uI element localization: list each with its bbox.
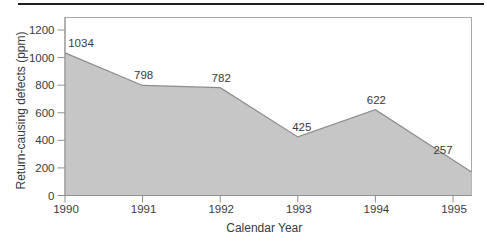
data-point-label: 798	[134, 69, 153, 81]
data-point-label: 1034	[68, 37, 94, 49]
defects-area-series	[65, 53, 472, 196]
x-tick-label: 1991	[131, 203, 157, 215]
x-tick-label: 1994	[364, 203, 390, 215]
x-tick-label: 1992	[208, 203, 234, 215]
y-tick-label: 400	[35, 134, 54, 146]
defects-area-chart-figure: 0200400600800100012001990199119921993199…	[0, 0, 487, 249]
x-tick-label: 1995	[441, 203, 467, 215]
x-axis-title: Calendar Year	[226, 221, 302, 235]
chart-svg: 0200400600800100012001990199119921993199…	[0, 0, 487, 249]
y-tick-label: 800	[35, 79, 54, 91]
data-point-label: 425	[292, 121, 311, 133]
data-point-label: 257	[433, 144, 452, 156]
data-point-label: 622	[367, 94, 386, 106]
y-tick-label: 1000	[29, 52, 55, 64]
y-tick-label: 600	[35, 107, 54, 119]
y-tick-label: 200	[35, 162, 54, 174]
y-tick-label: 1200	[29, 24, 55, 36]
x-tick-label: 1993	[286, 203, 312, 215]
data-point-label: 782	[212, 72, 231, 84]
y-tick-label: 0	[48, 190, 54, 202]
y-axis-title: Return-causing defects (ppm)	[14, 31, 28, 189]
x-tick-label: 1990	[53, 203, 79, 215]
